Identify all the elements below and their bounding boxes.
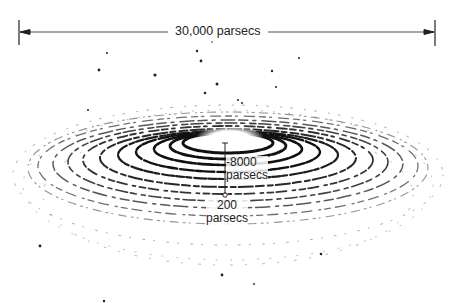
disk-thickness-unit: parsecs: [206, 212, 248, 225]
center-thickness-unit: parsecs: [226, 169, 268, 182]
center-thickness-value: 8000: [230, 155, 257, 169]
galactic-bulge: [196, 126, 264, 148]
galaxy-diagram: [0, 0, 454, 303]
disk-thickness-label: 200 parsecs: [206, 199, 248, 225]
scale-bar-label: 30,000 parsecs: [172, 25, 263, 38]
arrow-left-icon: [20, 30, 30, 35]
halo-stars: [39, 41, 323, 302]
arrow-right-icon: [424, 30, 434, 35]
center-thickness-label: -8000 parsecs: [226, 156, 268, 182]
